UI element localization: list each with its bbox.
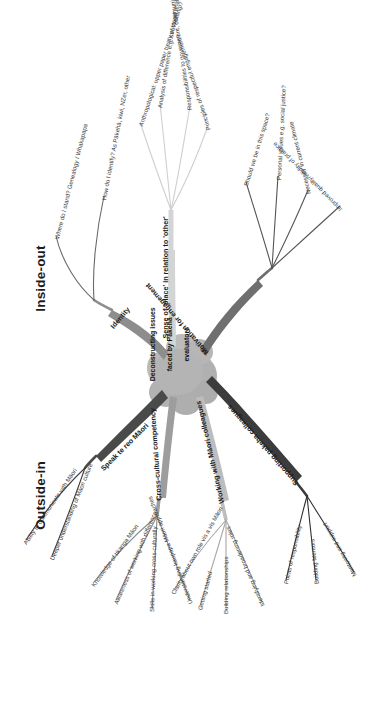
branch-sense-of-place <box>168 210 176 348</box>
branch-speak-te-reo <box>85 390 168 468</box>
mindmap-vector-layer <box>0 0 370 728</box>
mindmap-canvas: Deconstructing issues faced by Pākehā ev… <box>0 0 370 728</box>
branch-working-with-maori <box>196 396 229 520</box>
branch-identity <box>94 300 168 360</box>
branch-cross-cultural <box>157 396 177 516</box>
branch-motivation <box>200 268 272 356</box>
